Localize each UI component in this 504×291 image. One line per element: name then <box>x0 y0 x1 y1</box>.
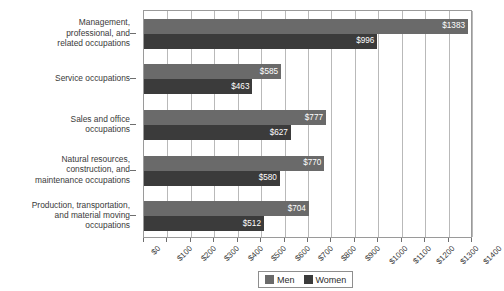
legend-swatch-icon <box>265 275 274 284</box>
bar-value-label: $580 <box>256 173 280 183</box>
value-tick-label: $700 <box>316 244 335 263</box>
gridline <box>378 11 379 237</box>
category-tick <box>130 78 136 79</box>
gridline <box>449 11 450 237</box>
category-tick <box>130 170 136 171</box>
bar-value-label: $627 <box>267 128 291 138</box>
bar-value-label: $463 <box>228 82 252 92</box>
category-axis: Management, professional, and related oc… <box>0 10 136 238</box>
value-tick <box>143 238 144 242</box>
legend-swatch-icon <box>304 275 313 284</box>
value-tick <box>284 238 285 242</box>
value-tick <box>401 238 402 242</box>
value-tick-label: $800 <box>340 244 359 263</box>
gridline <box>425 11 426 237</box>
value-tick-label: $0 <box>150 244 163 257</box>
value-tick-label: $400 <box>246 244 265 263</box>
value-tick-label: $1400 <box>482 244 504 266</box>
category-label: Management, professional, and related oc… <box>57 17 130 48</box>
bar-men: $704 <box>144 201 309 216</box>
chart-legend: MenWomen <box>258 271 353 288</box>
legend-item: Men <box>265 275 295 285</box>
gridline <box>472 11 473 237</box>
bar-women: $627 <box>144 125 291 140</box>
value-tick-label: $500 <box>269 244 288 263</box>
legend-label: Men <box>277 275 295 285</box>
bar-men: $585 <box>144 64 281 79</box>
bar-men: $770 <box>144 156 324 171</box>
value-tick-label: $1100 <box>411 244 433 266</box>
bar-value-label: $996 <box>353 36 377 46</box>
category-tick <box>130 33 136 34</box>
value-tick <box>471 238 472 242</box>
category-tick <box>130 215 136 216</box>
value-tick-label: $900 <box>363 244 382 263</box>
plot-area: $1383$996$585$463$777$627$770$580$704$51… <box>143 10 472 238</box>
category-tick <box>130 124 136 125</box>
legend-item: Women <box>304 275 347 285</box>
bar-men: $1383 <box>144 19 468 34</box>
bar-women: $512 <box>144 216 264 231</box>
value-tick-label: $1300 <box>458 244 480 266</box>
value-tick <box>424 238 425 242</box>
bar-women: $996 <box>144 34 377 49</box>
value-tick <box>260 238 261 242</box>
category-label: Natural resources, construction, and mai… <box>35 154 130 185</box>
bar-value-label: $704 <box>285 204 309 214</box>
category-label: Service occupations <box>55 73 130 83</box>
value-tick <box>377 238 378 242</box>
value-axis: $0$100$200$300$400$500$600$700$800$900$1… <box>143 238 472 272</box>
bar-women: $463 <box>144 79 252 94</box>
bar-women: $580 <box>144 171 280 186</box>
bar-value-label: $770 <box>300 158 324 168</box>
value-tick <box>237 238 238 242</box>
value-tick-label: $100 <box>176 244 195 263</box>
value-tick-label: $600 <box>293 244 312 263</box>
value-tick <box>448 238 449 242</box>
value-tick <box>166 238 167 242</box>
category-label: Sales and office occupations <box>71 114 130 134</box>
legend-label: Women <box>316 275 347 285</box>
value-tick-label: $300 <box>222 244 241 263</box>
bar-value-label: $1383 <box>439 21 468 31</box>
value-tick <box>213 238 214 242</box>
bar-men: $777 <box>144 110 326 125</box>
gridline <box>402 11 403 237</box>
value-tick <box>307 238 308 242</box>
bar-value-label: $585 <box>257 67 281 77</box>
value-tick-label: $1000 <box>388 244 410 266</box>
value-tick-label: $200 <box>199 244 218 263</box>
value-tick <box>354 238 355 242</box>
value-tick <box>190 238 191 242</box>
bar-value-label: $777 <box>302 113 326 123</box>
category-label: Production, transportation, and material… <box>32 200 130 231</box>
value-tick <box>330 238 331 242</box>
value-tick-label: $1200 <box>435 244 457 266</box>
bar-value-label: $512 <box>240 219 264 229</box>
